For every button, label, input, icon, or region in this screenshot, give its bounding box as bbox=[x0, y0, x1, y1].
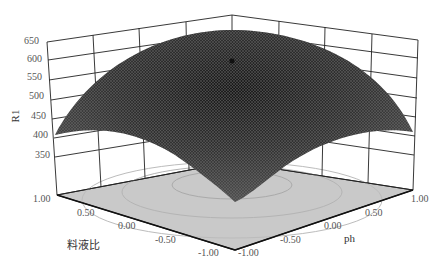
z-tick-label: 400 bbox=[33, 129, 48, 140]
z-tick-label: 350 bbox=[35, 149, 50, 160]
x-tick-label: -1.00 bbox=[198, 247, 219, 258]
response-surface bbox=[55, 30, 413, 202]
x-axis-title: 料液比 bbox=[67, 236, 100, 252]
z-tick-label: 450 bbox=[31, 110, 46, 121]
x-tick-label: 0.00 bbox=[118, 220, 136, 231]
y-tick-label: 0.00 bbox=[324, 220, 342, 231]
y-tick-label: -1.00 bbox=[238, 247, 259, 258]
z-tick-label: 600 bbox=[27, 53, 42, 64]
x-tick-label: 1.00 bbox=[33, 193, 51, 204]
y-tick-label: 0.50 bbox=[365, 207, 383, 218]
z-axis-title: R1 bbox=[9, 110, 21, 123]
z-tick-label: 550 bbox=[27, 71, 42, 82]
y-tick-label: 1.00 bbox=[411, 193, 429, 204]
z-tick-label: 500 bbox=[29, 90, 44, 101]
y-tick-label: -0.50 bbox=[280, 234, 301, 245]
y-axis-title: ph bbox=[344, 232, 355, 244]
surface-chart bbox=[0, 0, 439, 265]
x-tick-label: 0.50 bbox=[77, 207, 95, 218]
x-tick-label: -0.50 bbox=[155, 234, 176, 245]
z-tick-label: 650 bbox=[24, 35, 39, 46]
